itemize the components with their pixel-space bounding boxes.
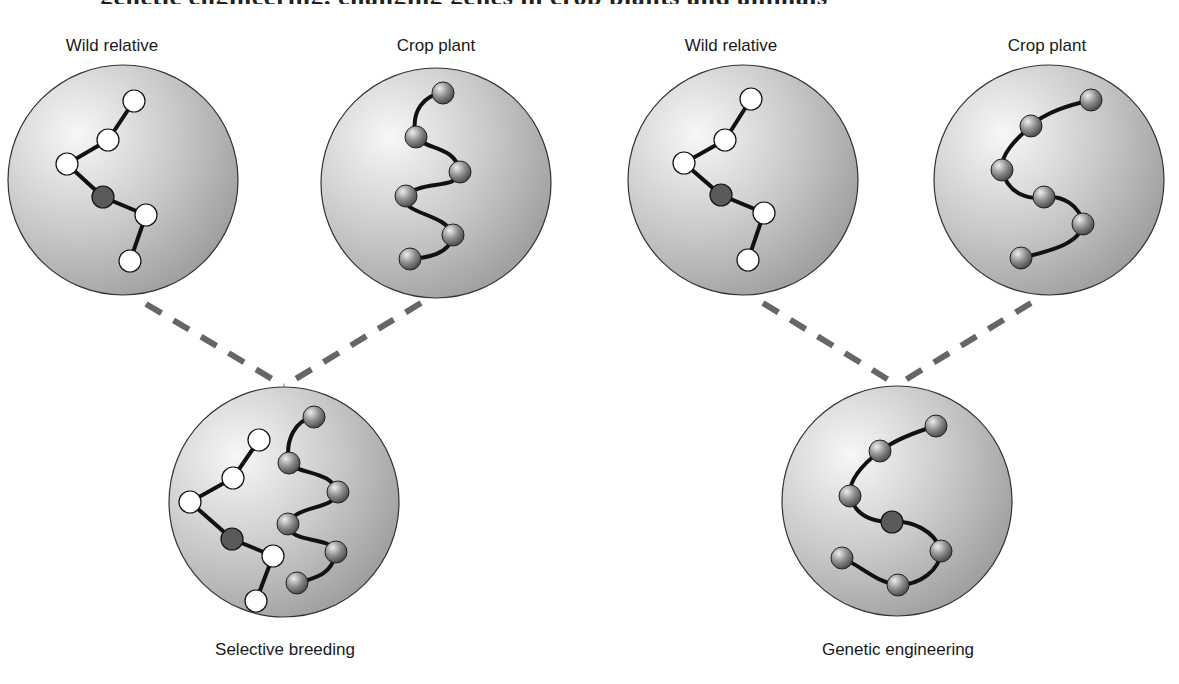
crop-gene-sphere bbox=[449, 161, 471, 183]
wild-gene-node bbox=[179, 491, 201, 513]
label-wild-relative-right: Wild relative bbox=[685, 36, 778, 56]
dash-crop-left-to-selective bbox=[284, 303, 421, 386]
crop-gene-sphere bbox=[432, 82, 454, 104]
crop-gene-sphere bbox=[831, 547, 853, 569]
crop-gene-sphere bbox=[839, 485, 861, 507]
crop-gene-sphere bbox=[1072, 213, 1094, 235]
label-crop-plant-right: Crop plant bbox=[1008, 36, 1086, 56]
cell-genetic-engineering bbox=[782, 386, 1012, 616]
target-gene-node bbox=[881, 511, 903, 533]
crop-gene-sphere bbox=[442, 224, 464, 246]
crop-gene-sphere bbox=[399, 248, 421, 270]
crop-gene-sphere bbox=[887, 574, 909, 596]
crop-gene-sphere bbox=[925, 415, 947, 437]
wild-gene-node bbox=[737, 249, 759, 271]
crop-gene-sphere bbox=[325, 541, 347, 563]
crop-gene-sphere bbox=[869, 440, 891, 462]
crop-gene-sphere bbox=[395, 185, 417, 207]
crop-gene-sphere bbox=[930, 540, 952, 562]
crop-gene-sphere bbox=[405, 126, 427, 148]
wild-gene-node bbox=[248, 429, 270, 451]
wild-gene-node bbox=[123, 90, 145, 112]
wild-gene-node bbox=[56, 153, 78, 175]
wild-gene-node bbox=[673, 152, 695, 174]
wild-gene-node bbox=[753, 202, 775, 224]
crop-gene-sphere bbox=[1033, 186, 1055, 208]
wild-gene-node bbox=[222, 467, 244, 489]
wild-gene-node bbox=[740, 88, 762, 110]
breeding-diagram bbox=[0, 0, 1179, 684]
wild-gene-node bbox=[119, 250, 141, 272]
cell-crop-plant-right bbox=[934, 65, 1164, 295]
wild-gene-node bbox=[245, 590, 267, 612]
dash-crop-right-to-genetic bbox=[897, 303, 1031, 385]
wild-gene-node bbox=[97, 129, 119, 151]
crop-gene-sphere bbox=[327, 481, 349, 503]
crop-gene-sphere bbox=[991, 159, 1013, 181]
crop-gene-sphere bbox=[1080, 89, 1102, 111]
label-selective-breeding: Selective breeding bbox=[215, 640, 355, 660]
target-gene-node bbox=[221, 528, 243, 550]
cell-wild-relative-right bbox=[628, 65, 858, 295]
cell-wild-relative-left bbox=[8, 65, 238, 295]
label-wild-relative-left: Wild relative bbox=[66, 36, 159, 56]
connection-lines bbox=[146, 303, 1031, 386]
cell-crop-plant-left bbox=[321, 68, 551, 298]
crop-gene-sphere bbox=[1020, 115, 1042, 137]
wild-gene-node bbox=[262, 545, 284, 567]
target-gene-node bbox=[92, 186, 114, 208]
dash-wild-left-to-selective bbox=[146, 304, 284, 386]
wild-gene-node bbox=[714, 129, 736, 151]
crop-gene-sphere bbox=[1010, 247, 1032, 269]
crop-gene-sphere bbox=[277, 513, 299, 535]
crop-gene-sphere bbox=[286, 572, 308, 594]
label-crop-plant-left: Crop plant bbox=[397, 36, 475, 56]
crop-gene-sphere bbox=[278, 452, 300, 474]
crop-gene-sphere bbox=[303, 406, 325, 428]
wild-gene-node bbox=[135, 204, 157, 226]
label-genetic-engineering: Genetic engineering bbox=[822, 640, 974, 660]
dash-wild-right-to-genetic bbox=[763, 303, 897, 385]
target-gene-node bbox=[710, 184, 732, 206]
cell-selective-breeding bbox=[169, 387, 399, 617]
